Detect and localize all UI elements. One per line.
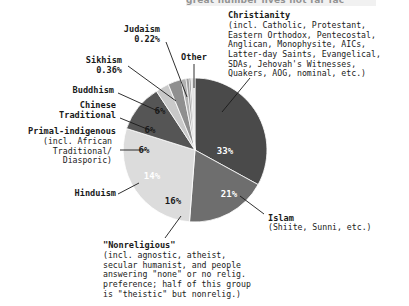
label-hinduism: Hinduism [18, 188, 116, 198]
label-primal-title: Primal-indigenous [0, 126, 116, 136]
label-sikhism-value: 0.36% [30, 65, 122, 75]
label-judaism-value: 0.22% [70, 34, 160, 44]
label-islam-detail: (Shiite, Sunni, etc.) [268, 223, 372, 233]
label-christianity-title: Christianity [228, 10, 290, 20]
pct-hinduism: 14% [140, 171, 164, 181]
pct-primal: 6% [134, 145, 154, 155]
pct-nonreligious: 16% [160, 196, 186, 206]
label-nonreligious-title: "Nonreligious" [103, 240, 175, 250]
pct-islam: 21% [216, 189, 242, 199]
label-judaism-title: Judaism [70, 24, 160, 34]
label-other: Other [165, 52, 223, 62]
label-primal-detail: (incl. African Traditional/ Diasporic) [0, 137, 112, 166]
label-chinese-traditional: Chinese Traditional [10, 100, 116, 120]
pct-buddhism: 6% [150, 106, 170, 116]
chart-canvas: great number lives not far fac [0, 0, 409, 306]
label-nonreligious-detail: (incl. agnostic, atheist, secular humani… [103, 251, 251, 299]
leader-islam [240, 196, 264, 214]
label-buddhism: Buddhism [16, 85, 114, 95]
label-christianity-detail: (incl. Catholic, Protestant, Eastern Ort… [228, 21, 381, 79]
pct-chinese: 6% [140, 125, 160, 135]
pct-christianity: 33% [212, 146, 238, 156]
label-sikhism-title: Sikhism [30, 55, 122, 65]
leader-nonreligious [165, 216, 181, 238]
